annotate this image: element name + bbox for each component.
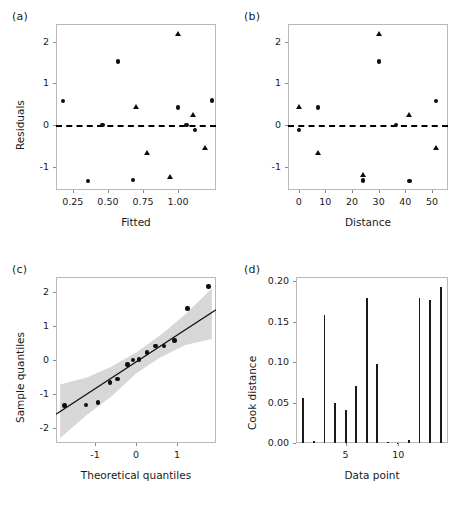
panel-a-triangle-point	[190, 112, 196, 117]
panel-d-ylabel: Cook distance	[246, 356, 258, 430]
panel-c-point	[62, 403, 66, 407]
panel-a-ytick-label: 2	[16, 36, 49, 47]
panel-a-xtick-label: 0.75	[123, 196, 163, 207]
panel-a-ytick-label: -1	[16, 161, 49, 172]
panel-c-ytick-label: 2	[16, 286, 49, 297]
panel-b-triangle-point	[406, 112, 412, 117]
panel-b-ytick-mark	[285, 125, 288, 126]
panel-d-bar	[302, 398, 304, 443]
panel-c-xtick-label: 1	[157, 449, 197, 460]
panel-a-xtick-label: 0.50	[88, 196, 128, 207]
panel-b-ytick-label: 1	[248, 77, 281, 88]
panel-b-xtick-mark	[432, 190, 433, 193]
panel-c-point	[115, 377, 119, 381]
panel-a-circle-point	[131, 178, 135, 182]
panel-c-xtick-mark	[177, 443, 178, 446]
panel-a-zero-reference-line	[56, 125, 216, 127]
panel-d-ytick-mark	[293, 322, 296, 323]
panel-a-circle-point	[86, 179, 90, 183]
panel-a-xtick-mark	[178, 190, 179, 193]
panel-d-xlabel: Data point	[292, 469, 452, 481]
panel-b-zero-reference-line	[288, 125, 448, 127]
panel-d-bar	[419, 298, 421, 443]
panel-b-xlabel: Distance	[288, 216, 448, 228]
panel-b-ytick-label: -1	[248, 161, 281, 172]
panel-c-xlabel: Theoretical quantiles	[46, 469, 226, 481]
panel-c-xtick-label: 0	[116, 449, 156, 460]
panel-d-bar	[429, 300, 431, 443]
panel-a-circle-point	[184, 123, 188, 127]
panel-a-xlabel: Fitted	[56, 216, 216, 228]
panel-a-circle-point	[176, 105, 180, 109]
panel-d-ytick-mark	[293, 281, 296, 282]
panel-c-ylabel: Sample quantiles	[14, 332, 26, 423]
panel-d-ytick-mark	[293, 403, 296, 404]
panel-c-ytick-mark	[53, 394, 56, 395]
panel-b-xtick-label: 50	[412, 196, 452, 207]
panel-d-ytick-mark	[293, 362, 296, 363]
panel-a: (a) 0.250.500.751.00-1012 Fitted Residua…	[0, 0, 235, 255]
panel-b-xtick-mark	[352, 190, 353, 193]
panel-a-ytick-mark	[53, 125, 56, 126]
panel-a-ytick-mark	[53, 42, 56, 43]
panel-a-triangle-point	[202, 145, 208, 150]
panel-d-bar	[324, 315, 326, 443]
panel-d-bar	[366, 298, 368, 443]
panel-b: (b) 01020304050-1012 Distance	[232, 0, 467, 255]
panel-c-xtick-mark	[136, 443, 137, 446]
panel-c-point	[96, 400, 100, 404]
panel-b-ytick-mark	[285, 42, 288, 43]
panel-b-ytick-mark	[285, 167, 288, 168]
panel-d-ytick-label: 0.00	[256, 437, 289, 448]
panel-d-bar	[376, 364, 378, 443]
panel-b-circle-point	[297, 128, 301, 132]
confidence-band-polygon	[60, 288, 212, 438]
panel-c-point	[153, 344, 157, 348]
panel-b-circle-point	[316, 105, 320, 109]
panel-d-bar	[355, 386, 357, 443]
panel-a-triangle-point	[133, 104, 139, 109]
panel-c-point	[108, 380, 112, 384]
panel-c-ytick-mark	[53, 326, 56, 327]
qq-reference-line	[56, 310, 216, 414]
panel-b-triangle-point	[360, 172, 366, 177]
panel-d-xtick-label: 10	[378, 449, 418, 460]
panel-a-ylabel: Residuals	[14, 100, 26, 150]
panel-b-xtick-mark	[325, 190, 326, 193]
panel-a-xtick-mark	[108, 190, 109, 193]
panel-c-point	[145, 350, 149, 354]
panel-d-bar	[387, 442, 389, 443]
panel-d-bar	[440, 287, 442, 443]
panel-d-ytick-label: 0.10	[256, 356, 289, 367]
panel-c-ytick-label: -2	[16, 422, 49, 433]
panel-d-bar	[345, 410, 347, 443]
panel-a-circle-point	[61, 99, 65, 103]
panel-b-circle-point	[407, 179, 411, 183]
panel-b-xtick-mark	[405, 190, 406, 193]
panel-b-circle-point	[361, 178, 365, 182]
panel-a-ytick-mark	[53, 167, 56, 168]
diagnostic-figure: (a) 0.250.500.751.00-1012 Fitted Residua…	[0, 0, 467, 510]
panel-d-ytick-label: 0.20	[256, 275, 289, 286]
panel-d-label: (d)	[244, 263, 260, 276]
panel-b-triangle-point	[433, 145, 439, 150]
panel-a-triangle-point	[175, 31, 181, 36]
panel-d-ytick-label: 0.05	[256, 397, 289, 408]
panel-a-xtick-label: 0.25	[53, 196, 93, 207]
panel-a-ytick-mark	[53, 83, 56, 84]
panel-c-point	[84, 403, 88, 407]
panel-d-xtick-label: 5	[326, 449, 366, 460]
panel-d-ytick-mark	[293, 443, 296, 444]
panel-b-xtick-mark	[299, 190, 300, 193]
panel-c-point	[125, 362, 129, 366]
panel-b-triangle-point	[376, 31, 382, 36]
panel-c-ytick-mark	[53, 428, 56, 429]
panel-c-point	[185, 306, 189, 310]
panel-a-circle-point	[193, 128, 197, 132]
qq-confidence-band	[56, 277, 216, 443]
panel-a-xtick-mark	[73, 190, 74, 193]
panel-d-ytick-label: 0.15	[256, 316, 289, 327]
panel-b-circle-point	[377, 59, 381, 63]
panel-a-ytick-label: 1	[16, 77, 49, 88]
panel-b-circle-point	[394, 123, 398, 127]
